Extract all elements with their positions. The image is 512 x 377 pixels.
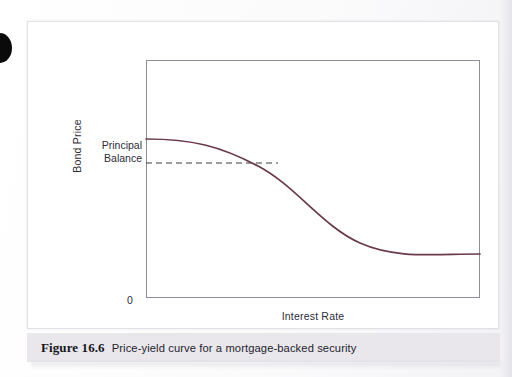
page-shadow [31, 362, 501, 369]
price-yield-curve [146, 139, 480, 255]
figure-caption-band: Figure 16.6 Price-yield curve for a mort… [27, 333, 500, 362]
figure-caption-text: Price-yield curve for a mortgage-backed … [112, 342, 357, 354]
origin-tick-label: 0 [127, 294, 133, 306]
principal-balance-label: Principal Balance [76, 139, 142, 164]
x-axis-title: Interest Rate [146, 310, 480, 322]
plot-canvas [146, 60, 480, 298]
principal-balance-label-line2: Balance [76, 152, 142, 165]
figure-number: Figure 16.6 [41, 340, 105, 356]
figure-panel: Bond Price Interest Rate Principal Balan… [27, 21, 499, 329]
principal-balance-label-line1: Principal [76, 139, 142, 152]
figure-page: Bond Price Interest Rate Principal Balan… [0, 0, 512, 377]
page-edge-shade [500, 0, 512, 377]
